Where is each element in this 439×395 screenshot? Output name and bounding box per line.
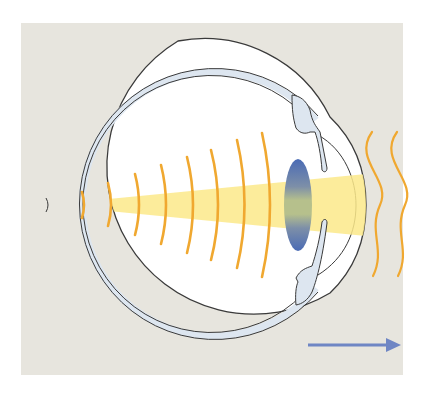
lens [284,159,312,251]
eye-diagram [0,0,439,395]
